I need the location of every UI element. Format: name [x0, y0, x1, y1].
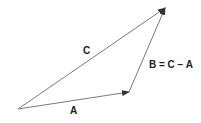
vector-b-label: B = C − A	[149, 59, 193, 70]
vector-a-label: A	[70, 105, 77, 116]
vector-c-label: C	[83, 45, 90, 56]
